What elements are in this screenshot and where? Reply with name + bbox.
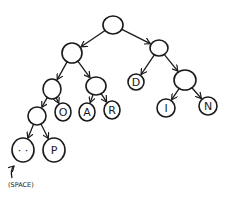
edge-n6-to-p — [41, 123, 49, 138]
tree-node-space: · · — [12, 138, 34, 162]
node-label: · · — [18, 144, 29, 157]
node-circle — [43, 79, 61, 99]
edge-n6-to-space — [28, 123, 34, 138]
edge-n2-to-n5 — [164, 54, 178, 71]
tree-node-root — [103, 16, 123, 34]
node-label: I — [164, 102, 167, 115]
node-circle — [86, 77, 106, 95]
node-label: A — [83, 106, 91, 119]
tree-diagram: DOARIN· ·P (SPACE) — [0, 0, 235, 198]
tree-node-n3 — [43, 79, 61, 99]
edge-n1-to-n4 — [77, 60, 90, 77]
node-label: D — [132, 76, 140, 89]
node-circle — [150, 40, 168, 56]
tree-node-r: R — [104, 101, 120, 119]
node-circle — [62, 43, 82, 63]
node-label: P — [51, 144, 58, 157]
edge-n3-to-n6 — [42, 97, 48, 108]
edge-n2-to-d — [141, 54, 155, 74]
node-circle — [28, 107, 46, 125]
space-annotation: (SPACE) — [8, 166, 34, 189]
edge-root-to-n2 — [121, 29, 150, 44]
tree-node-n1 — [62, 43, 82, 63]
node-circle — [174, 70, 196, 90]
tree-node-n2 — [150, 40, 168, 56]
space-annotation-label: (SPACE) — [8, 181, 34, 189]
tree-node-i: I — [157, 99, 175, 117]
annotation-arrow-icon — [11, 166, 14, 178]
tree-node-n4 — [86, 77, 106, 95]
tree-node-n5 — [174, 70, 196, 90]
tree-node-n6 — [28, 107, 46, 125]
tree-node-nn: N — [199, 97, 217, 115]
edge-n5-to-i — [172, 88, 180, 100]
tree-node-a: A — [79, 103, 95, 121]
node-label: R — [108, 104, 116, 117]
tree-nodes: DOARIN· ·P — [12, 16, 217, 162]
node-label: O — [59, 106, 68, 119]
tree-node-o: O — [55, 103, 71, 121]
edge-n5-to-nn — [191, 87, 201, 98]
edge-root-to-n1 — [81, 30, 106, 47]
tree-node-d: D — [128, 74, 144, 90]
node-circle — [103, 16, 123, 34]
tree-node-p: P — [43, 138, 65, 162]
node-label: N — [204, 100, 212, 113]
edge-n1-to-n3 — [57, 61, 67, 80]
